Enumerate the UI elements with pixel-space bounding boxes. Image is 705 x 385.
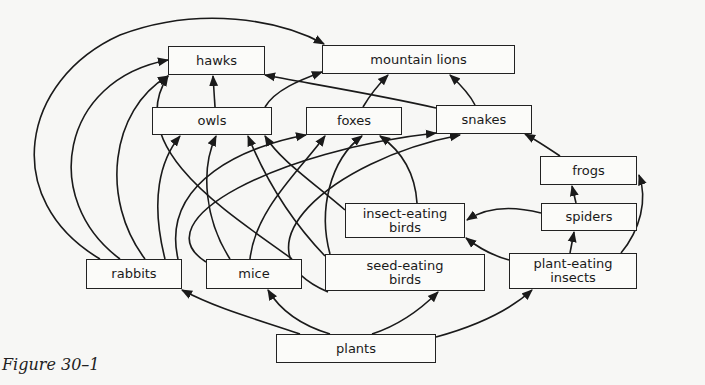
node-spiders: spiders bbox=[541, 203, 637, 231]
node-plant-eating-insects: plant-eating insects bbox=[509, 253, 637, 289]
node-mountain-lions: mountain lions bbox=[322, 45, 515, 74]
arrow-plants-to-seedbirds bbox=[372, 292, 438, 334]
arrow-mice-to-hawks bbox=[157, 76, 292, 259]
node-foxes: foxes bbox=[306, 107, 402, 135]
arrow-plants-to-mice bbox=[268, 290, 330, 334]
arrow-frogs-to-snakes bbox=[525, 134, 560, 156]
node-hawks: hawks bbox=[168, 46, 265, 75]
node-rabbits: rabbits bbox=[86, 259, 182, 289]
arrow-seedbirds-to-owls bbox=[248, 136, 325, 256]
node-snakes: snakes bbox=[436, 105, 532, 134]
arrow-rabbits-to-foxes bbox=[176, 135, 306, 259]
arrow-insects-to-spiders bbox=[570, 232, 574, 253]
node-seed-eating-birds: seed-eating birds bbox=[325, 254, 485, 291]
arrow-spiders-to-frogs bbox=[572, 186, 576, 203]
arrow-foxes-to-lions bbox=[363, 75, 388, 107]
arrow-rabbits-to-hawks bbox=[71, 60, 168, 259]
arrow-owls-to-hawks bbox=[213, 76, 215, 107]
arrow-insectbirds-to-foxes bbox=[380, 136, 417, 203]
arrow-mice-to-foxes bbox=[250, 136, 325, 259]
node-mice: mice bbox=[206, 259, 302, 289]
arrow-rabbits-to-owls bbox=[158, 136, 180, 259]
arrow-insectbirds-to-owls bbox=[265, 136, 345, 210]
arrow-plants-to-insects bbox=[436, 290, 532, 337]
arrow-snakes-to-hawks bbox=[265, 75, 436, 108]
arrow-plants-to-rabbits bbox=[182, 290, 300, 334]
arrow-snakes-to-lions bbox=[450, 75, 475, 105]
figure-caption: Figure 30–1 bbox=[2, 355, 100, 374]
node-insect-eating-birds: insect-eating birds bbox=[345, 203, 465, 238]
node-frogs: frogs bbox=[540, 156, 637, 185]
node-plants: plants bbox=[276, 334, 436, 363]
node-owls: owls bbox=[152, 107, 272, 135]
arrow-spiders-to-insectbirds bbox=[467, 209, 541, 220]
